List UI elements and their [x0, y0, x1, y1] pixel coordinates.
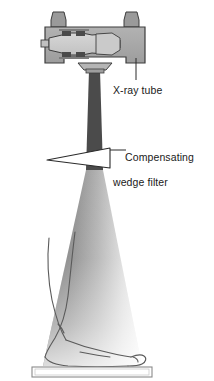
- xray-tube-housing: [41, 12, 145, 63]
- label-wedge-filter-line1: Compensating: [125, 151, 194, 163]
- cathode-stem: [41, 40, 49, 47]
- label-wedge-filter-line2: wedge filter: [113, 176, 194, 189]
- anode-assembly: [96, 33, 120, 55]
- compensating-wedge-filter: [47, 148, 110, 168]
- collimator-port: [86, 69, 104, 73]
- collimator-assembly: [78, 63, 112, 73]
- housing-mount-post-left: [51, 12, 66, 27]
- diagram-canvas: X-ray tube Compensating wedge filter: [0, 0, 214, 381]
- housing-mount-post-right: [124, 12, 139, 27]
- label-xray-tube: X-ray tube: [113, 84, 162, 97]
- support-bar-upper: [59, 29, 89, 31]
- support-bar-lower: [59, 57, 89, 59]
- label-compensating-wedge-filter: Compensating wedge filter: [113, 138, 194, 213]
- image-receptor-cassette: [32, 367, 152, 377]
